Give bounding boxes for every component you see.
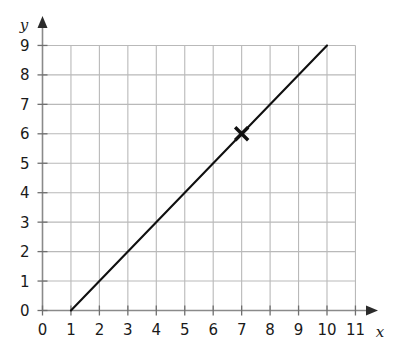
chart-background bbox=[0, 0, 399, 345]
x-tick-label: 8 bbox=[265, 321, 275, 339]
y-tick-label: 8 bbox=[20, 66, 30, 84]
y-tick-label: 4 bbox=[20, 184, 30, 202]
x-tick-label: 7 bbox=[237, 321, 247, 339]
x-tick-label: 3 bbox=[123, 321, 133, 339]
y-tick-label: 1 bbox=[20, 273, 30, 291]
y-tick-label: 2 bbox=[20, 243, 30, 261]
y-tick-label: 9 bbox=[20, 37, 30, 55]
x-tick-label: 4 bbox=[152, 321, 162, 339]
x-tick-label: 9 bbox=[294, 321, 304, 339]
y-tick-label: 0 bbox=[20, 302, 30, 320]
y-tick-label: 3 bbox=[20, 214, 30, 232]
x-tick-label: 0 bbox=[38, 321, 48, 339]
y-tick-label: 7 bbox=[20, 96, 30, 114]
x-tick-label: 10 bbox=[317, 321, 336, 339]
y-tick-label: 6 bbox=[20, 125, 30, 143]
x-tick-label: 1 bbox=[66, 321, 76, 339]
graph-canvas: 01234567891011 0123456789 y x bbox=[0, 0, 399, 345]
x-tick-label: 2 bbox=[95, 321, 105, 339]
x-tick-label: 6 bbox=[208, 321, 218, 339]
x-axis-label: x bbox=[376, 323, 385, 341]
y-tick-label: 5 bbox=[20, 155, 30, 173]
y-axis-label: y bbox=[19, 16, 29, 34]
x-tick-label: 11 bbox=[346, 321, 365, 339]
coordinate-graph-figure: 01234567891011 0123456789 y x bbox=[0, 0, 399, 345]
x-tick-label: 5 bbox=[180, 321, 190, 339]
